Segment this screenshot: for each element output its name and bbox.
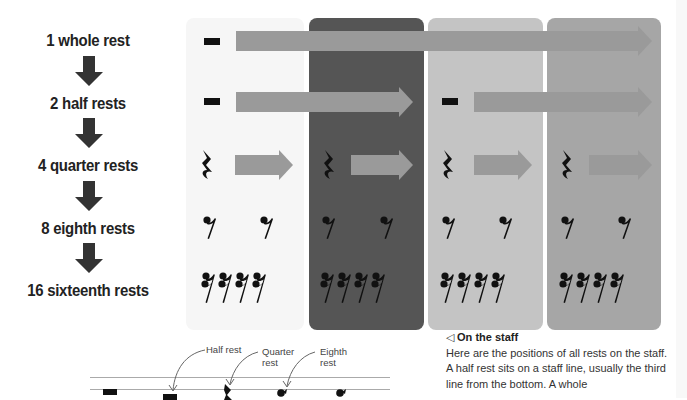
sixteenth-rest-icon [252,272,266,304]
sixteenth-rest-icon [576,272,590,304]
eighth-rest-icon [561,216,575,240]
sixteenth-rest-icon [371,272,385,304]
down-arrow-icon [74,118,104,148]
eighth-rest-icon [442,216,456,240]
down-arrow-icon [74,243,104,273]
row-label-half: 2 half rests [11,94,166,114]
row-label-eighth: 8 eighth rests [11,219,166,239]
row-label-whole: 1 whole rest [11,31,166,51]
eighth-rest-icon [322,216,336,240]
quarter-rest-icon [441,150,455,180]
sixteenth-rest-icon [337,272,351,304]
sixteenth-rest-icon [474,272,488,304]
sixteenth-rest-icon [320,272,334,304]
duration-arrow-whole [236,28,652,54]
eighth-rest-icon [260,216,274,240]
sixteenth-rest-icon [201,272,215,304]
sixteenth-rest-icon [235,272,249,304]
duration-arrow-quarter [474,152,532,178]
duration-arrow-quarter [589,152,652,178]
sixteenth-rest-icon [559,272,573,304]
caption: ◁ On the staff Here are the positions of… [446,330,676,392]
duration-arrow-half [236,89,413,115]
sixteenth-rest-icon [491,272,505,304]
row-label-sixteenth: 16 sixteenth rests [11,281,166,301]
eighth-rest-icon [499,216,513,240]
page-gutter [676,0,687,398]
sixteenth-rest-icon [440,272,454,304]
duration-arrow-half [474,89,652,115]
half-rest-icon [442,98,458,105]
eighth-rest-icon [203,216,217,240]
row-label-quarter: 4 quarter rests [11,156,166,176]
sixteenth-rest-icon [354,272,368,304]
eighth-rest-icon [618,216,632,240]
down-arrow-icon [74,181,104,211]
down-arrow-icon [74,56,104,86]
sixteenth-rest-icon [593,272,607,304]
duration-arrow-quarter [351,152,413,178]
sixteenth-rest-icon [218,272,232,304]
quarter-rest-icon [322,150,336,180]
whole-rest-icon [204,38,220,45]
caption-marker-icon: ◁ [446,331,454,343]
annotation-pointer-arrows [150,340,350,398]
quarter-rest-icon [200,150,214,180]
sixteenth-rest-icon [610,272,624,304]
eighth-rest-icon [380,216,394,240]
sixteenth-rest-icon [457,272,471,304]
quarter-rest-icon [560,150,574,180]
half-rest-icon [204,98,220,105]
duration-arrow-quarter [235,152,293,178]
whole-rest-icon [103,389,117,395]
caption-title: On the staff [457,331,518,343]
caption-body: Here are the positions of all rests on t… [446,346,676,393]
